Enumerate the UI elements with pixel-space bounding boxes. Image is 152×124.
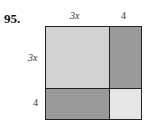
top-label-3x: 3x <box>70 10 79 21</box>
label-text: 3x <box>28 52 37 63</box>
region-3x-by-3x <box>46 27 110 89</box>
area-square <box>45 26 142 120</box>
side-label-3x: 3x <box>28 52 37 63</box>
region-4-by-4 <box>110 89 141 119</box>
label-text: 3x <box>70 10 79 21</box>
top-label-4: 4 <box>121 10 126 21</box>
side-label-4: 4 <box>33 97 38 108</box>
region-3x-by-4 <box>46 89 110 119</box>
region-4-by-3x <box>110 27 141 89</box>
problem-number: 95. <box>4 11 20 27</box>
